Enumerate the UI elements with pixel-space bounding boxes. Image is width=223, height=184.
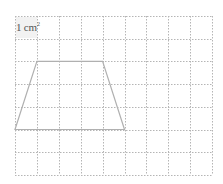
trapezoid-shape: [15, 61, 125, 129]
unit-label-text: 1 cm: [16, 21, 37, 33]
unit-label-superscript: 2: [37, 21, 40, 27]
unit-area-label: 1 cm2: [16, 17, 37, 38]
